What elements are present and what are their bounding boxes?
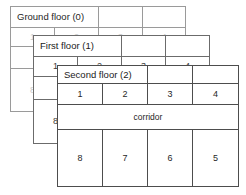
floor-label-ground-floor: Ground floor (0) bbox=[10, 6, 99, 28]
second-floor-room-6: 6 bbox=[147, 129, 193, 187]
second-floor-room-4: 4 bbox=[192, 83, 239, 105]
ground-floor-titlerow-cell-3 bbox=[98, 6, 143, 28]
first-floor-titlerow-cell-3 bbox=[121, 35, 166, 57]
second-floor-room-5: 5 bbox=[192, 129, 239, 187]
second-floor-corridor: corridor bbox=[57, 104, 239, 130]
floor-label-second-floor: Second floor (2) bbox=[57, 65, 148, 84]
floor-label-first-floor: First floor (1) bbox=[33, 35, 122, 57]
second-floor-room-8: 8 bbox=[57, 129, 103, 187]
second-floor-room-7: 7 bbox=[102, 129, 148, 187]
second-floor-titlerow-cell-3 bbox=[147, 65, 193, 84]
floor-panel-second-floor: Second floor (2) 1 2 3 4 corridor 8 7 6 … bbox=[57, 65, 239, 187]
second-floor-titlerow-cell-4 bbox=[192, 65, 239, 84]
first-floor-titlerow-cell-4 bbox=[165, 35, 210, 57]
ground-floor-titlerow-cell-4 bbox=[142, 6, 186, 28]
floor-plan-diagram: Ground floor (0) 1 2 3 4 8 First floor (… bbox=[0, 0, 246, 195]
second-floor-room-3: 3 bbox=[147, 83, 193, 105]
second-floor-room-2: 2 bbox=[102, 83, 148, 105]
second-floor-room-1: 1 bbox=[57, 83, 103, 105]
